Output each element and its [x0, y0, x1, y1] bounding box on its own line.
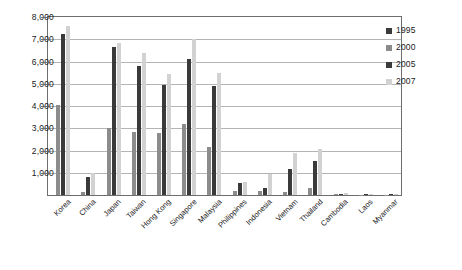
- legend-swatch-icon: [386, 45, 392, 51]
- bar: [313, 161, 317, 195]
- legend-swatch-icon: [386, 28, 392, 34]
- bar: [339, 194, 343, 195]
- legend-item-label: 2000: [396, 43, 416, 52]
- y-axis-tick-mark: [41, 128, 47, 129]
- bar-group: [199, 17, 224, 195]
- x-axis-tick-label: Hong Kong: [26, 198, 173, 270]
- legend: 1995200020052007: [386, 22, 458, 90]
- y-axis-tick-mark: [41, 84, 47, 85]
- bar-series-container: [48, 17, 401, 195]
- bar: [334, 194, 338, 195]
- x-axis-tick-label: Taiwan: [1, 198, 148, 270]
- bar: [182, 124, 186, 195]
- bar-group: [124, 17, 149, 195]
- bar: [207, 147, 211, 195]
- legend-item: 2007: [386, 73, 458, 90]
- bar: [389, 194, 393, 195]
- x-axis-tick-label: Malaysia: [76, 198, 223, 270]
- bar: [217, 73, 221, 195]
- y-axis-tick-mark: [41, 173, 47, 174]
- legend-item-label: 2005: [396, 60, 416, 69]
- legend-swatch-icon: [386, 62, 392, 68]
- x-axis-tick-label: Philippines: [102, 198, 249, 270]
- bar: [107, 128, 111, 195]
- y-axis-tick-mark: [41, 151, 47, 152]
- bar: [192, 39, 196, 195]
- legend-item-label: 1995: [396, 26, 416, 35]
- bar-group: [73, 17, 98, 195]
- x-axis-tick-label: Singapore: [51, 198, 198, 270]
- bar: [344, 193, 348, 195]
- legend-item: 2000: [386, 39, 458, 56]
- y-axis-tick-mark: [41, 106, 47, 107]
- bar: [81, 192, 85, 195]
- bar: [394, 194, 398, 195]
- bar: [61, 34, 65, 195]
- bar: [283, 192, 287, 195]
- x-axis-labels: KoreaChinaJapanTaiwanHong KongSingaporeM…: [48, 198, 401, 268]
- y-axis-tick-mark: [41, 17, 47, 18]
- bar-group: [149, 17, 174, 195]
- bar-group: [351, 17, 376, 195]
- legend-item: 2005: [386, 56, 458, 73]
- bar: [132, 132, 136, 195]
- y-axis-tick-mark: [41, 39, 47, 40]
- bar-group: [300, 17, 325, 195]
- bar: [369, 194, 373, 195]
- legend-swatch-icon: [386, 79, 392, 85]
- bar: [238, 183, 242, 195]
- bar: [293, 153, 297, 195]
- bar: [233, 191, 237, 195]
- bar-group: [174, 17, 199, 195]
- x-axis-tick-label: Cambodia: [203, 198, 350, 270]
- bar: [243, 182, 247, 195]
- legend-item-label: 2007: [396, 77, 416, 86]
- bar: [167, 74, 171, 195]
- x-axis-tick-label: Vietnam: [152, 198, 299, 270]
- bar: [263, 188, 267, 195]
- legend-item: 1995: [386, 22, 458, 39]
- bar: [56, 105, 60, 195]
- bar: [364, 194, 368, 195]
- bar: [142, 53, 146, 195]
- bar: [308, 188, 312, 195]
- bar: [117, 43, 121, 195]
- bar: [66, 26, 70, 195]
- bar-group: [98, 17, 123, 195]
- bar: [91, 173, 95, 195]
- bar-chart: KoreaChinaJapanTaiwanHong KongSingaporeM…: [0, 0, 462, 270]
- x-axis-tick-label: Indonesia: [127, 198, 274, 270]
- bar: [258, 191, 262, 195]
- bar: [268, 174, 272, 195]
- bar: [157, 133, 161, 195]
- x-axis-tick-label: Laos: [228, 198, 375, 270]
- bar: [112, 47, 116, 195]
- bar-group: [275, 17, 300, 195]
- bar: [212, 86, 216, 195]
- bar: [187, 59, 191, 195]
- bar: [137, 66, 141, 195]
- bar: [288, 169, 292, 195]
- bar-group: [325, 17, 350, 195]
- bar-group: [225, 17, 250, 195]
- bar-group: [250, 17, 275, 195]
- x-axis-tick-label: Myanmar: [253, 198, 400, 270]
- x-axis-tick-label: Thailand: [177, 198, 324, 270]
- bar: [86, 177, 90, 195]
- y-axis-tick-mark: [41, 62, 47, 63]
- bar: [162, 85, 166, 195]
- bar: [318, 149, 322, 195]
